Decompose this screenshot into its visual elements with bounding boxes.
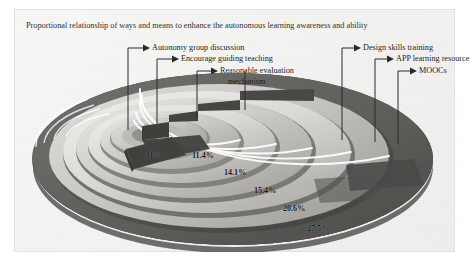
arrowhead-5	[387, 56, 394, 63]
callout-encourage-guiding-teaching: Encourage guiding teaching	[181, 54, 273, 64]
callout-moocs: MOOCs	[419, 66, 447, 76]
percent-label-20-6: 20.6%	[283, 204, 305, 213]
arrowhead-6	[410, 68, 417, 75]
figure-container: Proportional relationship of ways and me…	[0, 0, 473, 271]
percent-label-27-5: 27.5%	[307, 224, 329, 233]
callout-reasonable-evaluation-mechanism: Reasonable evaluation mechanism	[220, 66, 316, 87]
callout-design-skills-training: Design skills training	[363, 43, 433, 53]
callout-app-learning-resource: APP learning resource	[396, 54, 469, 64]
arrowhead-3	[211, 68, 218, 75]
callout-line-1: Reasonable evaluation	[220, 66, 294, 75]
leader-lines	[0, 0, 473, 271]
percent-label-11-4: 11.4%	[192, 151, 214, 160]
percent-label-15-4: 15.4%	[254, 186, 276, 195]
arrowhead-4	[354, 45, 361, 52]
arrowhead-1	[143, 45, 150, 52]
percent-label-11: 11%	[146, 151, 162, 160]
callout-autonomy-group-discussion: Autonomy group discussion	[152, 43, 244, 53]
callout-line-2: mechanism	[228, 77, 265, 88]
percent-label-14-1: 14.1%	[224, 168, 246, 177]
arrowhead-2	[172, 56, 179, 63]
